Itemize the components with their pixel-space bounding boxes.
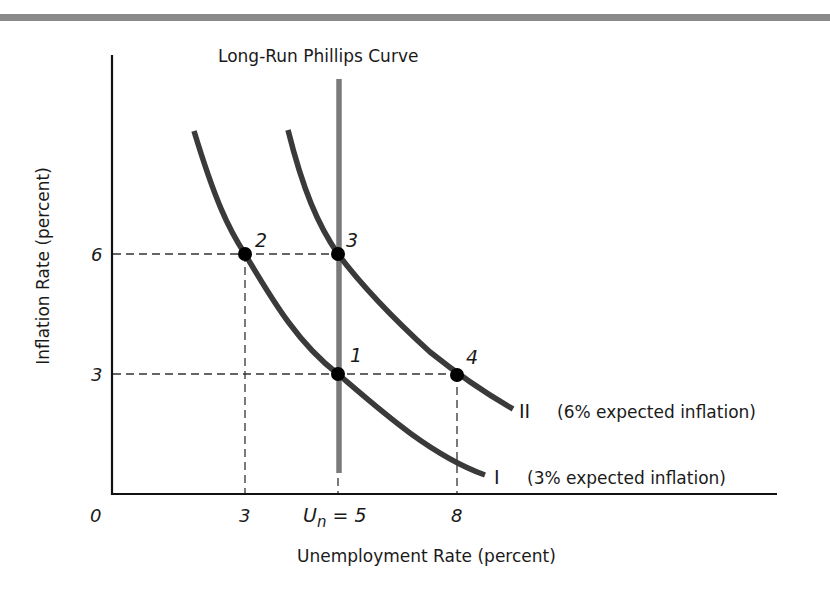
x-tick-un-rest: = 5: [326, 504, 366, 526]
phillips-curve-chart: 2 3 1 4 Long-Run Phillips Curve 6 3 0 3 …: [0, 0, 830, 605]
curve-I-label: I: [494, 466, 500, 488]
curve-II-label: II: [519, 400, 530, 422]
y-axis-label: Inflation Rate (percent): [33, 167, 53, 365]
point-2: [238, 247, 252, 261]
guide-lines: [113, 254, 457, 494]
chart-title: Long-Run Phillips Curve: [218, 46, 418, 66]
x-tick-8: 8: [451, 505, 462, 526]
x-tick-3: 3: [239, 505, 250, 526]
point-1: [331, 367, 345, 381]
point-label-3: 3: [346, 229, 358, 251]
curve-II: [288, 130, 513, 409]
point-label-1: 1: [350, 344, 362, 366]
x-tick-un: Un = 5: [303, 504, 367, 531]
y-tick-3: 3: [91, 364, 102, 385]
x-tick-un-main: U: [303, 504, 317, 526]
point-label-4: 4: [466, 346, 478, 368]
y-tick-6: 6: [91, 244, 102, 265]
x-axis-label: Unemployment Rate (percent): [297, 546, 556, 566]
curve-II-legend: (6% expected inflation): [557, 402, 756, 422]
x-tick-0: 0: [90, 505, 101, 526]
point-3: [331, 247, 345, 261]
point-4: [450, 368, 464, 382]
x-tick-un-sub: n: [317, 513, 327, 531]
curve-I-legend: (3% expected inflation): [527, 468, 726, 488]
point-label-2: 2: [255, 229, 267, 251]
